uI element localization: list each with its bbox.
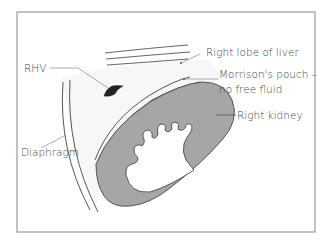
label-rhv: RHV (24, 62, 46, 74)
label-morrisons-pouch-1: Morrison's pouch – (219, 68, 317, 80)
label-morrisons-pouch-2: no free fluid (219, 83, 282, 95)
morrison-leader-dot (183, 78, 185, 80)
liver-leader-dot (180, 62, 182, 64)
label-diaphragm: Diaphragm (21, 146, 79, 158)
label-right-kidney: Right kidney (237, 109, 303, 121)
label-right-lobe-of-liver: Right lobe of liver (206, 46, 299, 58)
hepatorenal-diagram: RHV Right lobe of liver Morrison's pouch… (0, 0, 331, 248)
